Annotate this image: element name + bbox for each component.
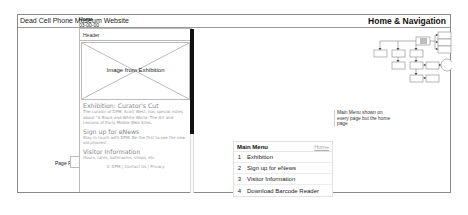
menu-item-number: 1 <box>234 154 245 160</box>
menu-item-visitor-information[interactable]: 3 Visitor Information <box>234 174 332 185</box>
phone-footer-links[interactable]: © DPM | Contact Us | Privacy <box>80 164 191 169</box>
image-placeholder: Image from Exhibition <box>81 42 190 100</box>
menu-item-label: Exhibition <box>245 154 273 160</box>
site-title: Dead Cell Phone Museum Website <box>20 17 129 24</box>
enews-heading[interactable]: Sign up for eNews <box>83 128 188 135</box>
scrollbar-track[interactable] <box>190 134 194 193</box>
menu-item-number: 3 <box>234 176 245 182</box>
main-menu-title: Main Menu <box>237 144 268 150</box>
home-link[interactable]: Home <box>314 144 329 150</box>
menu-item-label: Visitor Information <box>245 176 295 182</box>
menu-item-label: Download Barcode Reader <box>245 188 319 194</box>
scrollbar-thumb[interactable] <box>190 29 194 134</box>
menu-item-number: 4 <box>234 188 245 194</box>
menu-item-enews[interactable]: 2 Sign up for eNews <box>234 163 332 174</box>
site-flow-diagram <box>360 30 452 86</box>
visitor-info-section[interactable]: Visitor Information Hours, rates, bathro… <box>80 148 191 161</box>
section-title: Home & Navigation <box>368 16 446 26</box>
annotation-note: Main Menu shown on every page but the ho… <box>334 110 394 127</box>
phone-header: Header <box>80 29 191 41</box>
enews-body: Stay in touch with DPM. Be the first to … <box>83 135 188 146</box>
menu-item-number: 2 <box>234 165 245 171</box>
main-menu: Main Menu Home 1 Exhibition 2 Sign up fo… <box>233 141 333 197</box>
image-placeholder-label: Image from Exhibition <box>82 67 189 73</box>
page-fold-marker <box>70 156 79 168</box>
phone-mockup: Header Image from Exhibition Exhibition:… <box>79 28 192 192</box>
exhibition-heading[interactable]: Exhibition: Curator's Cut <box>83 102 188 109</box>
enews-section[interactable]: Sign up for eNews Stay in touch with DPM… <box>80 128 191 146</box>
exhibition-section[interactable]: Exhibition: Curator's Cut The curator of… <box>80 102 191 126</box>
main-menu-header: Main Menu Home <box>234 142 332 152</box>
menu-item-exhibition[interactable]: 1 Exhibition <box>234 152 332 163</box>
visitor-info-body: Hours, rates, bathrooms, shops, etc. <box>83 155 188 161</box>
exhibition-body: The curator of DPM, Scott West, has spec… <box>83 109 188 126</box>
menu-item-label: Sign up for eNews <box>245 165 296 171</box>
menu-item-download-barcode-reader[interactable]: 4 Download Barcode Reader <box>234 185 332 196</box>
screen-label: Home 03-00-00 <box>79 16 99 28</box>
visitor-info-heading[interactable]: Visitor Information <box>83 148 188 155</box>
